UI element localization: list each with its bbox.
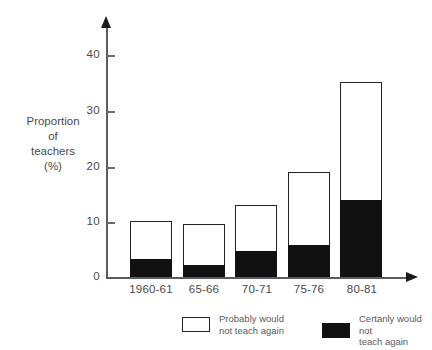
bar-stack-70-71[interactable] [235, 205, 277, 277]
y-tick-mark-20 [107, 167, 115, 169]
bar-segment-certainly-75-76[interactable] [288, 245, 330, 277]
bar-stack-80-81[interactable] [340, 82, 382, 277]
bar-stack-75-76[interactable] [288, 172, 330, 277]
chart-figure: Proportion of teachers (%) 40 30 20 10 0… [0, 0, 432, 350]
chart-legend: Probably would not teach again Certanly … [0, 310, 432, 344]
legend-label-probably: Probably would not teach again [219, 313, 284, 336]
bar-stack-65-66[interactable] [183, 224, 225, 277]
y-tick-mark-40 [107, 55, 115, 57]
y-tick-mark-30 [107, 111, 115, 113]
y-tick-label-40: 40 [72, 48, 100, 60]
legend-entry-certainly: Certanly would not teach again [322, 313, 432, 348]
x-axis-line [106, 277, 408, 279]
y-axis-line [106, 26, 108, 278]
y-axis-title-line-1: Proportion [10, 114, 96, 129]
y-axis-title-line-2: of [10, 129, 96, 144]
y-tick-label-0: 0 [72, 270, 100, 282]
bar-stack-1960-61[interactable] [130, 221, 172, 277]
y-axis-title-line-3: teachers [10, 144, 96, 159]
y-tick-mark-10 [107, 222, 115, 224]
legend-swatch-dark-icon [322, 323, 350, 338]
bar-segment-certainly-80-81[interactable] [340, 200, 382, 277]
y-tick-label-30: 30 [72, 104, 100, 116]
legend-swatch-light-icon [182, 317, 210, 332]
bar-segment-certainly-1960-61[interactable] [130, 259, 172, 277]
legend-entry-probably: Probably would not teach again [182, 313, 284, 336]
x-axis-arrow-icon [406, 272, 418, 282]
legend-label-certainly: Certanly would not teach again [359, 313, 432, 348]
bar-segment-certainly-65-66[interactable] [183, 265, 225, 277]
y-tick-label-20: 20 [72, 160, 100, 172]
y-axis-arrow-icon [101, 16, 111, 28]
bar-segment-certainly-70-71[interactable] [235, 251, 277, 277]
y-tick-label-10: 10 [72, 215, 100, 227]
x-tick-label-80-81: 80-81 [324, 283, 400, 295]
